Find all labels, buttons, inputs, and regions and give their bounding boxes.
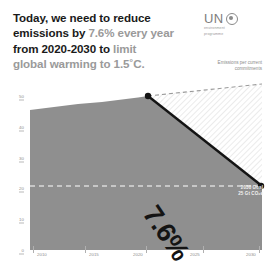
goal-callout-line-2: 25 Gt CO₂e xyxy=(238,191,263,197)
chart-svg xyxy=(30,96,262,260)
y-tick-label: 20 xyxy=(19,186,24,191)
y-tick-40: 40 xyxy=(2,124,24,131)
logo-subtitle-line-1: environment xyxy=(204,26,262,31)
peak-marker-dot xyxy=(145,93,151,99)
y-tick-rule xyxy=(19,100,24,101)
headline-line-4: global warming to 1.5˚C. xyxy=(13,57,145,70)
x-tick-label: 2015 xyxy=(89,252,99,257)
x-tick-2010: 2010 xyxy=(36,252,47,258)
x-tick-2020: 2020 xyxy=(133,252,144,258)
y-tick-30: 30 xyxy=(2,155,24,162)
headline-line-1: Today, we need to reduce xyxy=(13,11,151,24)
y-tick-20: 20 xyxy=(2,186,24,193)
headline-line-2-dark: emissions by xyxy=(13,26,88,39)
y-tick-label: 10 xyxy=(19,217,24,222)
page-title: Today, we need to reduce emissions by 7.… xyxy=(13,10,188,72)
un-environment-logo: UN environment programme xyxy=(204,12,262,36)
x-tick-label: 2030 xyxy=(246,252,256,257)
y-tick-label: 50 xyxy=(19,94,24,99)
x-tick-mark xyxy=(259,246,260,253)
headline-line-3-dark: from 2020-2030 to xyxy=(13,42,113,55)
y-tick-rule xyxy=(19,130,24,131)
y-tick-50: 50 xyxy=(2,94,24,101)
y-tick-0: 0 xyxy=(2,248,24,255)
logo-wordmark: UN xyxy=(204,12,223,25)
x-tick-label: 2025 xyxy=(190,252,200,257)
headline-line-2-light: 7.6% every year xyxy=(88,26,174,39)
x-tick-mark xyxy=(146,246,147,253)
y-tick-10: 10 xyxy=(2,217,24,224)
y-tick-label: 40 xyxy=(19,124,24,129)
x-tick-mark xyxy=(33,246,34,253)
y-axis: 50 40 30 20 10 0 xyxy=(0,96,30,250)
logo-row: UN xyxy=(204,12,262,25)
y-tick-rule xyxy=(19,254,24,255)
y-tick-label: 0 xyxy=(22,248,24,253)
x-tick-2025: 2025 xyxy=(190,252,201,258)
globe-laurel-icon xyxy=(226,13,238,25)
goal-callout: 2030 Goal 25 Gt CO₂e xyxy=(238,185,263,196)
goal-callout-line-1: 2030 Goal xyxy=(238,185,263,191)
headline-line-3-light: limit xyxy=(113,42,136,55)
logo-subtitle-line-2: programme xyxy=(204,32,262,37)
y-tick-label: 30 xyxy=(19,155,24,160)
y-tick-rule xyxy=(19,223,24,224)
plot-area xyxy=(30,96,262,250)
y-tick-rule xyxy=(19,192,24,193)
y-tick-rule xyxy=(19,161,24,162)
x-axis: 2010 2015 2020 2025 2030 xyxy=(30,252,262,268)
x-tick-label: 2010 xyxy=(37,252,47,257)
x-tick-label: 2020 xyxy=(133,252,143,257)
header: Today, we need to reduce emissions by 7.… xyxy=(0,0,270,92)
x-tick-2015: 2015 xyxy=(88,252,99,258)
emissions-projection-label: Emissions per current commitments xyxy=(192,60,262,72)
infographic-page: Today, we need to reduce emissions by 7.… xyxy=(0,0,270,276)
x-tick-mark xyxy=(203,246,204,253)
emissions-chart: 50 40 30 20 10 0 xyxy=(0,86,270,276)
x-tick-mark xyxy=(85,246,86,253)
x-tick-2030: 2030 xyxy=(246,252,257,258)
